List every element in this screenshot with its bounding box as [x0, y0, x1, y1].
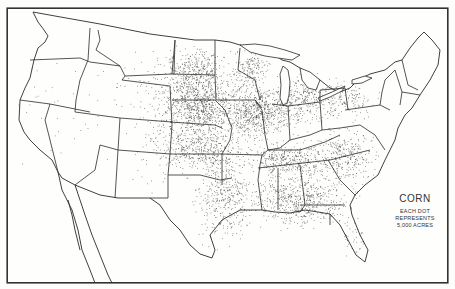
us-outline — [19, 12, 440, 262]
legend-line-1: EACH DOT — [380, 208, 450, 215]
legend-line-2: REPRESENTS — [380, 215, 450, 222]
state-borders — [20, 28, 420, 225]
map-legend: CORN EACH DOT REPRESENTS 5,000 ACRES — [380, 193, 450, 229]
density-dots — [19, 32, 380, 257]
legend-title: CORN — [380, 193, 450, 204]
legend-line-3: 5,000 ACRES — [380, 222, 450, 229]
lake-ontario — [352, 76, 372, 84]
us-map — [0, 0, 455, 289]
lake-superior — [240, 44, 300, 60]
lake-huron — [300, 68, 320, 90]
